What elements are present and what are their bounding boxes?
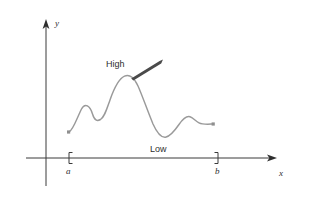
function-curve (69, 75, 213, 137)
tick-label-b: b (215, 166, 220, 176)
pointer-arrow-icon (131, 60, 163, 81)
figure-canvas: y x a b High Low (0, 0, 310, 197)
low-label: Low (150, 144, 167, 154)
tick-label-a: a (66, 166, 71, 176)
extreme-value-figure: y x a b High Low (0, 0, 310, 197)
y-axis-label: y (54, 18, 59, 28)
curve-start-dot (67, 130, 70, 133)
high-label: High (106, 59, 125, 69)
curve-end-dot (212, 122, 215, 125)
x-axis-label: x (278, 168, 283, 178)
x-axis (26, 155, 277, 162)
y-axis (43, 19, 50, 186)
